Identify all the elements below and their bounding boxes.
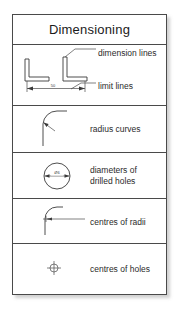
- radius-curves-label: radius curves: [90, 124, 141, 135]
- dimensioning-card: Dimensioning: [12, 14, 167, 295]
- legend-row-radius-curves: radius curves: [13, 106, 166, 153]
- card-header: Dimensioning: [13, 15, 166, 45]
- page-root: Dimensioning: [0, 0, 182, 311]
- legend-row-centres-of-holes: centres of holes: [13, 244, 166, 295]
- radius-curve-figure: [13, 106, 93, 153]
- diameter-value: Ø6: [54, 170, 60, 175]
- legend-row-centres-of-radii: centres of radii: [13, 199, 166, 244]
- limit-lines-label: limit lines: [98, 81, 133, 92]
- page-title: Dimensioning: [49, 22, 130, 37]
- centre-mark-figure: [13, 244, 93, 295]
- centre-of-radius-figure: [13, 199, 93, 244]
- circle-diameter-figure: Ø6: [13, 153, 93, 199]
- legend-row-dimension-limit-lines: 50 dimension lines limit lines: [13, 45, 166, 106]
- legend-row-diameters: Ø6 diameters of drilled holes: [13, 153, 166, 199]
- centres-of-radii-label: centres of radii: [90, 217, 146, 228]
- centres-of-holes-label: centres of holes: [90, 264, 150, 275]
- diameters-label: diameters of drilled holes: [90, 165, 137, 186]
- dimension-value: 50: [51, 83, 56, 88]
- legend-rows: 50 dimension lines limit lines: [13, 45, 166, 295]
- dimension-lines-label: dimension lines: [98, 48, 157, 59]
